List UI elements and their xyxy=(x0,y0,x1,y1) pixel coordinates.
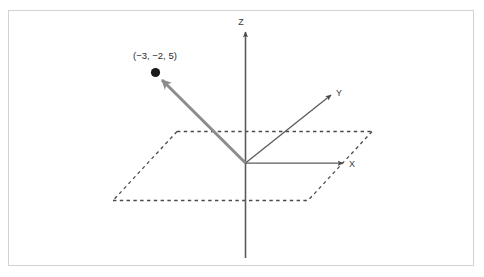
vector-point-label: (−3, −2, 5) xyxy=(133,50,177,61)
coordinate-diagram: Z Y X (−3, −2, 5) xyxy=(0,0,484,277)
y-axis: Y xyxy=(246,88,343,163)
vector-line xyxy=(162,80,246,163)
vector-endpoint-dot xyxy=(151,68,160,77)
z-axis-label: Z xyxy=(238,17,244,27)
xy-plane xyxy=(113,132,372,201)
y-axis-line xyxy=(246,95,332,163)
position-vector: (−3, −2, 5) xyxy=(133,50,246,163)
plane-edge-right xyxy=(308,132,372,201)
y-axis-label: Y xyxy=(336,88,342,98)
z-axis: Z xyxy=(238,17,245,258)
figure-root: Z Y X (−3, −2, 5) xyxy=(0,0,484,277)
x-axis-label: X xyxy=(349,159,355,169)
plane-edge-left xyxy=(113,132,177,201)
